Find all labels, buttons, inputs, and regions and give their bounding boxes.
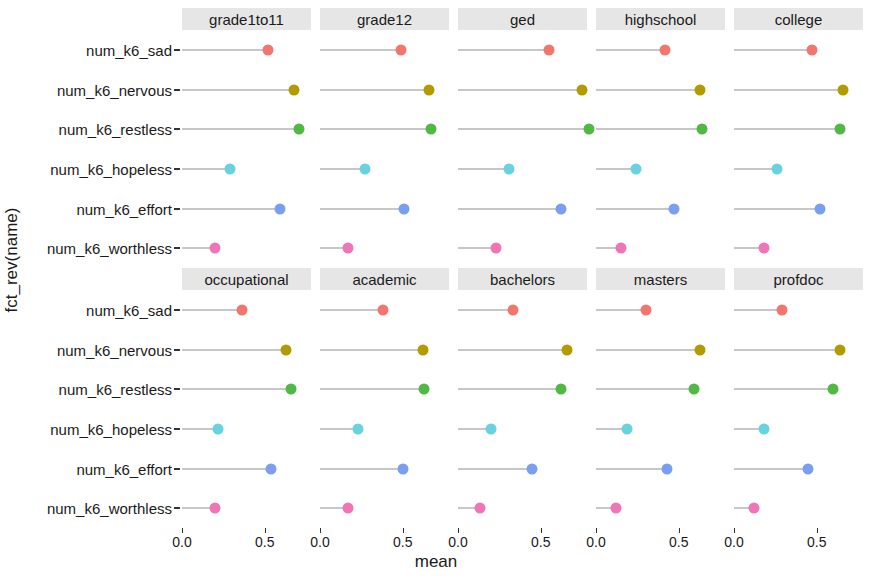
data-point-num-k6-effort xyxy=(803,463,814,474)
facet-strip-label: grade12 xyxy=(320,8,449,30)
lollipop-segment xyxy=(320,309,383,310)
facet-panel xyxy=(734,30,863,268)
data-point-num-k6-worthless xyxy=(210,243,221,254)
data-point-num-k6-restless xyxy=(425,124,436,135)
lollipop-segment xyxy=(458,208,561,209)
lollipop-segment xyxy=(734,208,820,209)
lollipop-segment xyxy=(182,389,291,390)
lollipop-segment xyxy=(596,129,702,130)
data-point-num-k6-sad xyxy=(660,44,671,55)
lollipop-segment xyxy=(734,129,840,130)
lollipop-segment xyxy=(458,49,549,50)
lollipop-segment xyxy=(596,49,665,50)
y-axis-label-num-k6-nervous: num_k6_nervous xyxy=(57,81,172,98)
y-axis-label-num-k6-sad: num_k6_sad xyxy=(86,41,172,58)
lollipop-segment xyxy=(182,309,242,310)
facet-strip-label: college xyxy=(734,8,863,30)
facet-panel xyxy=(596,290,725,528)
data-point-num-k6-effort xyxy=(662,463,673,474)
data-point-num-k6-restless xyxy=(828,384,839,395)
x-axis-tick-label: 0.0 xyxy=(724,534,743,550)
y-axis-label-num-k6-hopeless: num_k6_hopeless xyxy=(50,160,172,177)
y-axis-label-num-k6-hopeless: num_k6_hopeless xyxy=(50,420,172,437)
data-point-num-k6-hopeless xyxy=(213,423,224,434)
facet-strip-label: masters xyxy=(596,268,725,290)
x-axis-tick-label: 0.5 xyxy=(255,534,274,550)
lollipop-segment xyxy=(458,468,532,469)
x-axis-tick-label: 0.5 xyxy=(531,534,550,550)
facet-occupational: occupational xyxy=(182,268,311,528)
lollipop-segment xyxy=(596,389,694,390)
x-axis-tick xyxy=(541,528,542,533)
y-axis-tick xyxy=(174,428,180,430)
x-axis-ticks-row: 0.00.50.00.50.00.50.00.50.00.5 xyxy=(24,528,872,554)
data-point-num-k6-effort xyxy=(266,463,277,474)
x-axis-tick xyxy=(817,528,818,533)
facet-academic: academic xyxy=(320,268,449,528)
data-point-num-k6-worthless xyxy=(343,503,354,514)
facet-strip-label: academic xyxy=(320,268,449,290)
x-axis-tick xyxy=(679,528,680,533)
x-axis-cell: 0.00.5 xyxy=(734,528,863,554)
data-point-num-k6-hopeless xyxy=(359,163,370,174)
data-point-num-k6-nervous xyxy=(417,344,428,355)
x-axis-tick-label: 0.0 xyxy=(172,534,191,550)
data-point-num-k6-nervous xyxy=(424,84,435,95)
y-axis-label-num-k6-worthless: num_k6_worthless xyxy=(47,500,172,517)
lollipop-segment xyxy=(320,389,424,390)
data-point-num-k6-nervous xyxy=(695,344,706,355)
lollipop-segment xyxy=(182,49,268,50)
x-axis-spacer xyxy=(24,528,182,554)
x-axis-cell: 0.00.5 xyxy=(182,528,311,554)
x-axis-tick-label: 0.5 xyxy=(393,534,412,550)
data-point-num-k6-worthless xyxy=(758,243,769,254)
lollipop-segment xyxy=(596,208,674,209)
data-point-num-k6-sad xyxy=(263,44,274,55)
facet-panel xyxy=(734,290,863,528)
data-point-num-k6-effort xyxy=(815,203,826,214)
data-point-num-k6-nervous xyxy=(289,84,300,95)
data-point-num-k6-hopeless xyxy=(486,423,497,434)
lollipop-segment xyxy=(182,208,280,209)
facet-strip-label: bachelors xyxy=(458,268,587,290)
data-point-num-k6-sad xyxy=(543,44,554,55)
x-axis-tick-label: 0.0 xyxy=(310,534,329,550)
x-axis-tick xyxy=(734,528,735,533)
facet-strip-label: profdoc xyxy=(734,268,863,290)
data-point-num-k6-restless xyxy=(286,384,297,395)
data-point-num-k6-worthless xyxy=(610,503,621,514)
data-point-num-k6-hopeless xyxy=(504,163,515,174)
data-point-num-k6-effort xyxy=(397,463,408,474)
y-axis-tick xyxy=(174,507,180,509)
x-axis-cell: 0.00.5 xyxy=(596,528,725,554)
lollipop-segment xyxy=(734,349,840,350)
data-point-num-k6-hopeless xyxy=(758,423,769,434)
data-point-num-k6-worthless xyxy=(474,503,485,514)
data-point-num-k6-restless xyxy=(688,384,699,395)
data-point-num-k6-restless xyxy=(555,384,566,395)
lollipop-segment xyxy=(734,89,843,90)
facet-bachelors: bachelors xyxy=(458,268,587,528)
data-point-num-k6-sad xyxy=(640,304,651,315)
lollipop-segment xyxy=(320,468,403,469)
data-point-num-k6-worthless xyxy=(615,243,626,254)
facet-panel xyxy=(458,30,587,268)
x-axis-tick-label: 0.0 xyxy=(586,534,605,550)
data-point-num-k6-nervous xyxy=(562,344,573,355)
data-point-num-k6-nervous xyxy=(695,84,706,95)
y-axis-title: fct_rev(name) xyxy=(0,0,24,520)
lollipop-segment xyxy=(182,89,294,90)
y-axis-tick xyxy=(174,208,180,210)
data-point-num-k6-sad xyxy=(377,304,388,315)
lollipop-segment xyxy=(458,349,567,350)
y-axis-labels: num_k6_sadnum_k6_nervousnum_k6_restlessn… xyxy=(24,8,182,268)
y-axis-label-num-k6-nervous: num_k6_nervous xyxy=(57,341,172,358)
y-axis-label-num-k6-effort: num_k6_effort xyxy=(76,460,172,477)
data-point-num-k6-hopeless xyxy=(224,163,235,174)
x-axis-tick xyxy=(182,528,183,533)
lollipop-segment xyxy=(458,389,561,390)
facet-profdoc: profdoc xyxy=(734,268,863,528)
y-axis-tick xyxy=(174,247,180,249)
data-point-num-k6-restless xyxy=(696,124,707,135)
lollipop-segment xyxy=(596,349,700,350)
